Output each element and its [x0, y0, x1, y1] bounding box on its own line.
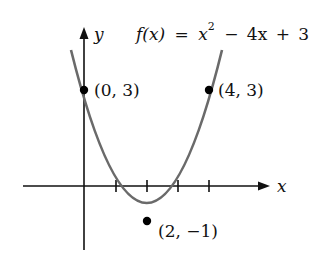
function-rest: − 4x + 3	[224, 24, 309, 44]
equals-sign: =	[175, 24, 189, 44]
point-label-4-3: (4, 3)	[218, 82, 264, 99]
y-axis-label: y	[94, 26, 104, 43]
vertex-label: (2, −1)	[158, 223, 218, 240]
point-4-3	[205, 86, 213, 94]
function-name: f(x)	[136, 24, 165, 44]
point-0-3	[80, 86, 88, 94]
x-axis-arrow-icon	[258, 182, 270, 191]
vertex-point	[143, 217, 151, 225]
x-term: x	[198, 24, 208, 44]
point-label-0-3: (0, 3)	[94, 82, 140, 99]
parabola-diagram: y x f(x) = x2 − 4x + 3 (0, 3) (4, 3) (2,…	[0, 0, 325, 253]
y-axis-arrow-icon	[80, 27, 89, 39]
x-axis-label: x	[277, 178, 287, 195]
exponent: 2	[208, 20, 215, 33]
function-title: f(x) = x2 − 4x + 3	[136, 24, 309, 43]
